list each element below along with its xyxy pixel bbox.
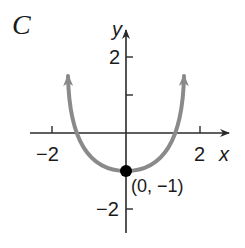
vertex-label: (0, −1): [131, 176, 184, 196]
panel-label: C: [12, 9, 31, 40]
y-tick-label-2: 2: [109, 46, 120, 68]
x-tick-label-neg2: −2: [36, 143, 59, 165]
parabola-graph: C −2 2 2 −2 x y (0, −1): [0, 0, 245, 248]
y-tick-label-neg2: −2: [96, 198, 119, 220]
x-axis-label: x: [218, 143, 230, 165]
x-tick-label-2: 2: [194, 143, 205, 165]
parabola-right-branch: [126, 76, 184, 171]
y-axis-label: y: [110, 18, 123, 40]
parabola-left-branch: [68, 76, 126, 171]
